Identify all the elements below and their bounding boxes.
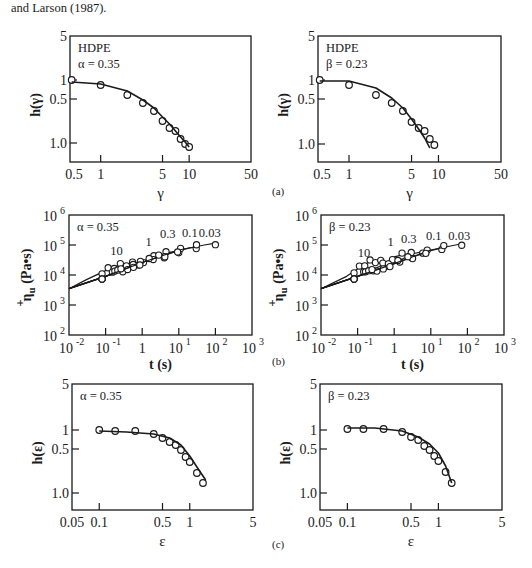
curve-label: 0.3 [401, 232, 417, 246]
data-point [427, 136, 434, 143]
curve-label: 10 [110, 244, 123, 258]
panel-label-c: (c) [272, 538, 284, 550]
svg-text:t (s): t (s) [149, 357, 172, 373]
svg-text:5: 5 [60, 235, 65, 246]
svg-text:1: 1 [308, 73, 315, 88]
svg-text:1: 1 [391, 341, 398, 356]
chart-a-left: 510.51.0h(γ)0.5151050γHDPEα = 0.35 [28, 29, 258, 201]
svg-text:-2: -2 [76, 336, 84, 347]
svg-text:0.5: 0.5 [402, 515, 420, 530]
curve-label: 0.3 [160, 227, 176, 241]
svg-text:10: 10 [59, 341, 73, 356]
svg-text:h(ε): h(ε) [30, 441, 46, 464]
svg-text:3: 3 [259, 336, 264, 347]
svg-text:β = 0.23: β = 0.23 [326, 57, 368, 71]
chart-c-right: 510.51.0h(ε)0.050.10.515εβ = 0.23 [278, 377, 506, 549]
svg-text:2: 2 [222, 336, 227, 347]
svg-text:h(ε): h(ε) [278, 441, 294, 464]
svg-text:10: 10 [457, 341, 471, 356]
svg-text:10: 10 [43, 299, 57, 314]
svg-text:+: + [12, 299, 27, 306]
svg-text:0.1: 0.1 [339, 515, 357, 530]
data-point [156, 252, 162, 258]
svg-text:5: 5 [408, 167, 415, 182]
svg-text:0.5: 0.5 [154, 515, 172, 530]
data-point [399, 250, 405, 256]
svg-text:10: 10 [43, 329, 57, 344]
svg-text:50: 50 [494, 167, 508, 182]
svg-text:0.5: 0.5 [50, 92, 68, 107]
svg-text:5: 5 [312, 235, 317, 246]
chart-a-right: 510.51.0h(γ)0.5151050γHDPEβ = 0.23 [276, 29, 508, 201]
curve-label: 1 [388, 235, 394, 249]
curve-label: 0.03 [199, 226, 221, 240]
svg-text:10: 10 [431, 167, 445, 182]
data-point [137, 262, 143, 268]
svg-text:0.05: 0.05 [60, 515, 85, 530]
svg-text:1.0: 1.0 [298, 137, 316, 152]
data-point [175, 249, 181, 255]
curve-label: 0.1 [182, 226, 198, 240]
svg-text:6: 6 [60, 205, 65, 216]
data-point [351, 276, 357, 282]
svg-text:0.05: 0.05 [308, 515, 333, 530]
svg-text:1: 1 [346, 167, 353, 182]
svg-text:10: 10 [242, 341, 256, 356]
svg-text:1.0: 1.0 [300, 486, 318, 501]
data-point [344, 426, 351, 433]
data-point [441, 242, 447, 248]
svg-text:1: 1 [186, 336, 191, 347]
svg-text:ε: ε [159, 533, 165, 549]
svg-text:-1: -1 [113, 336, 121, 347]
data-point [369, 266, 375, 272]
svg-text:5: 5 [60, 29, 67, 44]
svg-text:5: 5 [499, 515, 506, 530]
svg-text:10: 10 [348, 341, 362, 356]
svg-text:5: 5 [308, 29, 315, 44]
data-point [351, 270, 357, 276]
data-point [459, 242, 465, 248]
data-point [212, 242, 218, 248]
svg-text:10: 10 [182, 167, 196, 182]
svg-text:5: 5 [310, 377, 317, 392]
svg-text:1: 1 [186, 515, 193, 530]
svg-text:3: 3 [511, 336, 516, 347]
data-point [373, 92, 380, 99]
svg-text:3: 3 [60, 295, 65, 306]
svg-text:1: 1 [97, 167, 104, 182]
svg-text:ε: ε [408, 533, 414, 549]
svg-text:γ: γ [405, 185, 413, 201]
svg-text:0.5: 0.5 [313, 167, 331, 182]
svg-text:10: 10 [311, 341, 325, 356]
svg-text:1: 1 [435, 515, 442, 530]
curve-label: 0.03 [448, 229, 470, 243]
data-point [346, 82, 353, 89]
svg-text:β = 0.23: β = 0.23 [329, 220, 371, 234]
svg-text:10: 10 [295, 209, 309, 224]
svg-text:ηu (Pa•s): ηu (Pa•s) [19, 248, 37, 301]
svg-text:0.5: 0.5 [298, 92, 316, 107]
data-point [96, 427, 103, 434]
curve-label: 0.1 [426, 229, 442, 243]
svg-text:10: 10 [96, 341, 110, 356]
svg-text:10: 10 [169, 341, 183, 356]
svg-text:ηu (Pa•s): ηu (Pa•s) [271, 248, 289, 301]
data-point [426, 447, 433, 454]
svg-text:10: 10 [421, 341, 435, 356]
svg-text:2: 2 [474, 336, 479, 347]
svg-text:4: 4 [60, 265, 65, 276]
svg-text:0.5: 0.5 [300, 442, 318, 457]
chart-b-left: 106105104103102ηu (Pa•s)+10-210-11101102… [12, 205, 264, 373]
svg-text:10: 10 [494, 341, 508, 356]
curve-label: 1 [146, 235, 152, 249]
data-point [316, 77, 323, 84]
panel-label-b: (b) [272, 355, 285, 367]
data-point [360, 426, 367, 433]
svg-text:α = 0.35: α = 0.35 [78, 57, 120, 71]
svg-text:10: 10 [205, 341, 219, 356]
svg-text:β = 0.23: β = 0.23 [328, 389, 370, 403]
svg-text:5: 5 [62, 377, 69, 392]
svg-text:6: 6 [312, 205, 317, 216]
svg-text:2: 2 [312, 325, 317, 336]
svg-text:0.1: 0.1 [90, 515, 108, 530]
